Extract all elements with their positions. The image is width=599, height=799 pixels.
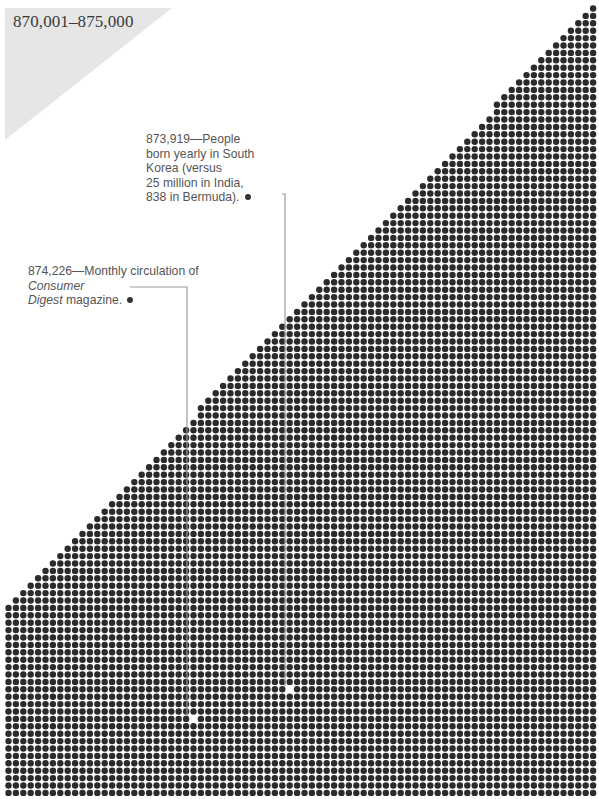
dot	[190, 745, 196, 751]
dot	[94, 649, 100, 655]
dot	[257, 390, 263, 396]
dot	[28, 731, 34, 737]
dot	[383, 664, 389, 670]
dot	[264, 464, 270, 470]
dot	[50, 634, 56, 640]
dot	[575, 716, 581, 722]
dot	[449, 168, 455, 174]
dot	[205, 427, 211, 433]
dot	[420, 250, 426, 256]
dot	[294, 775, 300, 781]
dot	[575, 94, 581, 100]
dot	[575, 338, 581, 344]
dot	[383, 464, 389, 470]
dot	[368, 472, 374, 478]
dot	[464, 220, 470, 226]
dot	[590, 94, 596, 100]
dot	[590, 383, 596, 389]
dot	[583, 272, 589, 278]
dot	[109, 745, 115, 751]
dot	[464, 383, 470, 389]
dot	[139, 723, 145, 729]
dot	[301, 627, 307, 633]
dot	[494, 782, 500, 788]
dot	[139, 738, 145, 744]
dot	[405, 472, 411, 478]
dot	[94, 546, 100, 552]
dot	[494, 457, 500, 463]
dot	[79, 612, 85, 618]
dot	[509, 457, 515, 463]
dot	[398, 375, 404, 381]
dot	[560, 102, 566, 108]
dot	[153, 657, 159, 663]
dot	[242, 627, 248, 633]
dot	[383, 531, 389, 537]
dot	[442, 509, 448, 515]
dot	[324, 346, 330, 352]
dot	[568, 205, 574, 211]
dot	[546, 420, 552, 426]
dot	[553, 346, 559, 352]
dot	[20, 657, 26, 663]
dot	[235, 708, 241, 714]
dot	[390, 642, 396, 648]
dot	[294, 435, 300, 441]
dot	[383, 686, 389, 692]
dot	[479, 205, 485, 211]
dot	[583, 405, 589, 411]
dot	[28, 694, 34, 700]
dot	[472, 250, 478, 256]
dot	[560, 523, 566, 529]
dot	[494, 375, 500, 381]
dot	[494, 346, 500, 352]
dot	[494, 309, 500, 315]
dot	[464, 279, 470, 285]
dot	[287, 620, 293, 626]
dot	[590, 87, 596, 93]
dot	[412, 279, 418, 285]
dot	[435, 198, 441, 204]
dot	[523, 198, 529, 204]
dot	[131, 723, 137, 729]
dot	[464, 612, 470, 618]
dot	[531, 213, 537, 219]
dot	[72, 568, 78, 574]
dot	[94, 694, 100, 700]
dot	[494, 731, 500, 737]
dot	[346, 516, 352, 522]
dot	[390, 324, 396, 330]
dot	[546, 479, 552, 485]
dot	[442, 768, 448, 774]
dot	[560, 279, 566, 285]
dot	[87, 694, 93, 700]
dot	[35, 694, 41, 700]
dot	[72, 686, 78, 692]
dot	[383, 449, 389, 455]
dot	[116, 597, 122, 603]
dot	[435, 531, 441, 537]
dot	[427, 790, 433, 796]
dot	[560, 509, 566, 515]
dot	[227, 760, 233, 766]
dot	[472, 768, 478, 774]
dot	[109, 649, 115, 655]
dot	[590, 738, 596, 744]
dot	[583, 294, 589, 300]
dot	[568, 116, 574, 122]
dot	[316, 753, 322, 759]
dot	[35, 760, 41, 766]
dot	[287, 627, 293, 633]
dot	[79, 560, 85, 566]
dot	[361, 264, 367, 270]
dot	[331, 597, 337, 603]
bullet-icon	[127, 297, 133, 303]
dot	[523, 716, 529, 722]
dot	[457, 597, 463, 603]
dot	[427, 486, 433, 492]
dot	[94, 775, 100, 781]
dot	[227, 383, 233, 389]
dot	[102, 671, 108, 677]
dot	[190, 486, 196, 492]
dot	[398, 753, 404, 759]
